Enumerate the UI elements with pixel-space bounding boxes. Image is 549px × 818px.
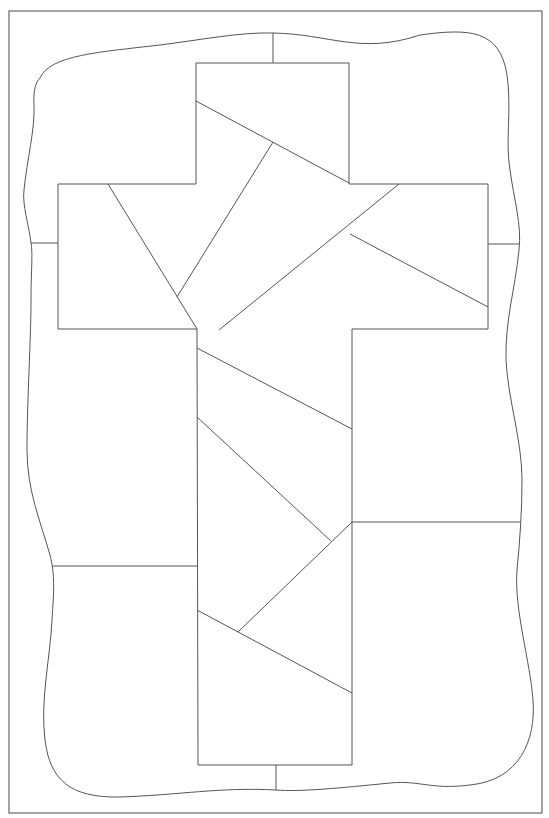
right-arm-long-slant-line (219, 184, 399, 330)
stem-slant-4-line (197, 610, 352, 693)
cross-outline (58, 63, 488, 765)
top-inner-slant-line (177, 142, 273, 297)
cross-quilt-diagram (0, 0, 549, 818)
page-frame (9, 11, 542, 813)
pattern-segments (31, 33, 521, 790)
left-arm-slant-line (108, 184, 197, 329)
stem-slant-2-line (197, 417, 331, 541)
stem-slant-1-line (197, 348, 352, 429)
stem-slant-3-line (238, 522, 352, 632)
wavy-border (24, 32, 534, 797)
right-arm-slant-line (350, 234, 488, 307)
